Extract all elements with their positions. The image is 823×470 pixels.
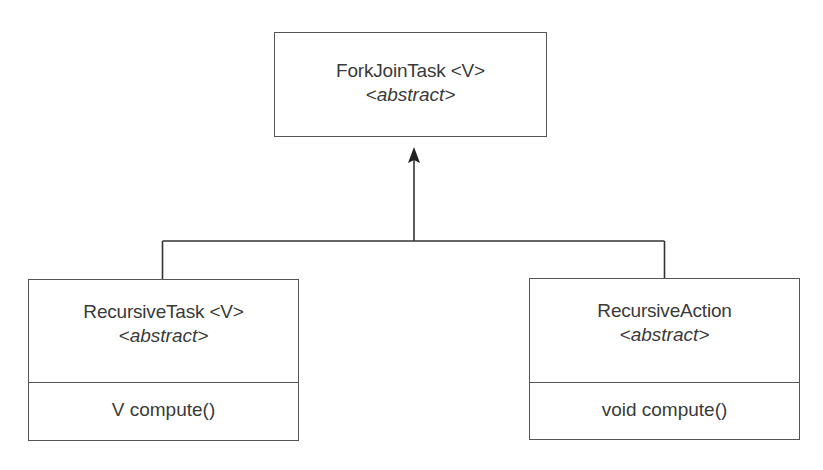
class-box-recursiveaction: RecursiveAction <abstract> void compute(…: [529, 278, 800, 440]
class-method: void compute(): [530, 398, 799, 422]
class-box-recursivetask: RecursiveTask <V> <abstract> V compute(): [28, 279, 299, 441]
class-stereotype: <abstract>: [530, 323, 799, 347]
class-method: V compute(): [29, 398, 298, 422]
class-name: ForkJoinTask <V>: [275, 59, 546, 83]
compartment-divider: [29, 382, 298, 383]
class-stereotype: <abstract>: [29, 324, 298, 348]
compartment-divider: [530, 382, 799, 383]
class-name: RecursiveAction: [530, 299, 799, 323]
class-stereotype: <abstract>: [275, 83, 546, 107]
class-box-forkjointask: ForkJoinTask <V> <abstract>: [274, 32, 547, 137]
class-name: RecursiveTask <V>: [29, 300, 298, 324]
